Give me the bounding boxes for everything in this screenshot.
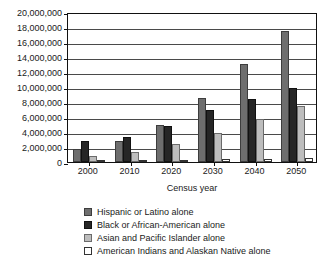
legend-item-label: Hispanic or Latino alone — [97, 207, 194, 217]
legend-swatch-icon — [84, 221, 92, 229]
y-axis-tick-mark — [64, 119, 68, 120]
gridline — [68, 104, 316, 105]
y-axis-tick-label: 10,000,000 — [17, 84, 62, 93]
bar[interactable] — [289, 88, 297, 162]
bar[interactable] — [264, 159, 272, 162]
bar[interactable] — [123, 137, 131, 162]
legend-item[interactable]: American Indians and Alaskan Native alon… — [84, 245, 324, 257]
x-axis-tick-label: 2000 — [67, 166, 109, 177]
bar[interactable] — [256, 119, 264, 162]
gridline — [68, 134, 316, 135]
y-axis-tick-label: 0 — [57, 159, 62, 168]
gridline — [68, 29, 316, 30]
bar-group-2020 — [156, 14, 188, 162]
bar[interactable] — [240, 64, 248, 162]
bar[interactable] — [73, 149, 81, 162]
x-axis-labels: 200020102020203020402050 — [67, 166, 317, 180]
legend-swatch-icon — [84, 234, 92, 242]
bar[interactable] — [172, 144, 180, 162]
y-axis-tick-mark — [64, 149, 68, 150]
y-axis-tick-mark — [64, 164, 68, 165]
bar[interactable] — [139, 160, 147, 162]
y-axis-tick-label: 8,000,000 — [22, 99, 62, 108]
gridline — [68, 44, 316, 45]
y-axis-tick-mark — [64, 29, 68, 30]
bar-group-2050 — [281, 14, 313, 162]
bar[interactable] — [131, 152, 139, 162]
bar[interactable] — [222, 159, 230, 162]
x-axis-tick-label: 2020 — [150, 166, 192, 177]
bar[interactable] — [156, 125, 164, 162]
legend-item-label: Asian and Pacific Islander alone — [97, 233, 225, 243]
legend-swatch-icon — [84, 247, 92, 255]
legend-item-label: Black or African-American alone — [97, 220, 225, 230]
bar[interactable] — [206, 110, 214, 163]
legend-swatch-icon — [84, 208, 92, 216]
bar[interactable] — [180, 160, 188, 162]
y-axis-tick-mark — [64, 14, 68, 15]
legend-item[interactable]: Black or African-American alone — [84, 219, 324, 231]
bar-chart: 20,000,00018,000,00016,000,00014,000,000… — [0, 0, 329, 259]
x-axis-tick-label: 2030 — [192, 166, 234, 177]
x-axis-tick-label: 2040 — [234, 166, 276, 177]
bar[interactable] — [248, 99, 256, 162]
legend-item-label: American Indians and Alaskan Native alon… — [97, 246, 271, 256]
chart-legend: Hispanic or Latino aloneBlack or African… — [84, 206, 324, 258]
x-axis-tick-label: 2050 — [275, 166, 317, 177]
bar[interactable] — [89, 156, 97, 162]
plot-area — [67, 13, 317, 163]
y-axis-tick-mark — [64, 74, 68, 75]
bar[interactable] — [81, 141, 89, 162]
y-axis-tick-label: 20,000,000 — [17, 9, 62, 18]
bar[interactable] — [115, 141, 123, 162]
gridline — [68, 89, 316, 90]
y-axis-tick-label: 14,000,000 — [17, 54, 62, 63]
y-axis-tick-mark — [64, 104, 68, 105]
bar[interactable] — [297, 106, 305, 162]
y-axis-tick-label: 18,000,000 — [17, 24, 62, 33]
y-axis-labels: 20,000,00018,000,00016,000,00014,000,000… — [0, 0, 64, 259]
legend-item[interactable]: Asian and Pacific Islander alone — [84, 232, 324, 244]
gridline — [68, 119, 316, 120]
y-axis-tick-label: 6,000,000 — [22, 114, 62, 123]
y-axis-tick-label: 12,000,000 — [17, 69, 62, 78]
gridline — [68, 74, 316, 75]
bar[interactable] — [214, 133, 222, 162]
bar[interactable] — [164, 126, 172, 162]
bar-group-2000 — [73, 14, 105, 162]
x-axis-tick-label: 2010 — [109, 166, 151, 177]
gridline — [68, 59, 316, 60]
bar[interactable] — [198, 98, 206, 162]
y-axis-tick-mark — [64, 44, 68, 45]
bar-group-2030 — [198, 14, 230, 162]
bar[interactable] — [281, 31, 289, 162]
gridline — [68, 149, 316, 150]
bar-group-2010 — [115, 14, 147, 162]
y-axis-tick-mark — [64, 89, 68, 90]
legend-item[interactable]: Hispanic or Latino alone — [84, 206, 324, 218]
y-axis-tick-label: 4,000,000 — [22, 129, 62, 138]
bar[interactable] — [97, 160, 105, 162]
bar-group-2040 — [240, 14, 272, 162]
y-axis-tick-label: 16,000,000 — [17, 39, 62, 48]
y-axis-tick-mark — [64, 134, 68, 135]
y-axis-tick-mark — [64, 59, 68, 60]
y-axis-tick-label: 2,000,000 — [22, 144, 62, 153]
x-axis-title: Census year — [67, 183, 317, 194]
bar[interactable] — [305, 158, 313, 162]
